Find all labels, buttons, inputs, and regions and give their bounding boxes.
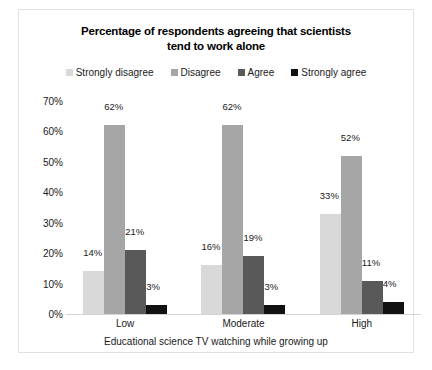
bar-value-label: 3% — [146, 281, 160, 293]
bar[interactable] — [201, 265, 222, 314]
legend-item-disagree[interactable]: Disagree — [171, 67, 221, 78]
bar-slot: 33% — [320, 101, 341, 314]
bar[interactable] — [320, 214, 341, 314]
legend-item-agree[interactable]: Agree — [238, 67, 275, 78]
y-axis-tick-label: 30% — [33, 217, 63, 228]
bar[interactable] — [104, 125, 125, 314]
bar[interactable] — [383, 302, 404, 314]
bar-cluster: 16%62%19%3% — [201, 101, 285, 314]
bar-group-moderate: 16%62%19%3% — [184, 101, 302, 314]
bar-group-high: 33%52%11%4% — [303, 101, 421, 314]
legend-label: Strongly disagree — [76, 67, 154, 78]
legend-label: Disagree — [181, 67, 221, 78]
bar-value-label: 14% — [83, 247, 102, 259]
chart-legend: Strongly disagreeDisagreeAgreeStrongly a… — [19, 67, 413, 78]
x-axis-tick-label: Moderate — [222, 318, 264, 329]
bar-value-label: 19% — [243, 232, 262, 244]
bar[interactable] — [83, 271, 104, 314]
legend-item-strongly-agree[interactable]: Strongly agree — [291, 67, 366, 78]
bar-value-label: 52% — [341, 132, 360, 144]
bar-value-label: 3% — [264, 281, 278, 293]
chart-title: Percentage of respondents agreeing that … — [19, 24, 413, 54]
bar-slot: 4% — [383, 101, 404, 314]
bar-value-label: 16% — [201, 241, 220, 253]
plot-area: 14%62%21%3%16%62%19%3%33%52%11%4% — [66, 101, 421, 314]
y-axis-tick-label: 70% — [33, 96, 63, 107]
y-axis: 70%60%50%40%30%20%10%0% — [33, 101, 63, 314]
bar-cluster: 33%52%11%4% — [320, 101, 404, 314]
bar-slot: 14% — [83, 101, 104, 314]
x-axis-baseline — [66, 314, 421, 315]
y-axis-tick-label: 0% — [33, 309, 63, 320]
bar-group-low: 14%62%21%3% — [66, 101, 184, 314]
chart-frame: Percentage of respondents agreeing that … — [18, 9, 414, 353]
legend-swatch-icon — [171, 69, 178, 76]
bar-value-label: 21% — [125, 226, 144, 238]
bar[interactable] — [362, 281, 383, 314]
bar-value-label: 4% — [383, 278, 397, 290]
y-axis-tick-label: 40% — [33, 187, 63, 198]
legend-swatch-icon — [66, 69, 73, 76]
x-axis-tick-labels: LowModerateHigh — [66, 318, 421, 334]
bar-slot: 11% — [362, 101, 383, 314]
chart-title-line-1: Percentage of respondents agreeing that … — [81, 25, 351, 37]
y-axis-tick-label: 20% — [33, 248, 63, 259]
bar[interactable] — [264, 305, 285, 314]
chart-title-line-2: tend to work alone — [19, 39, 413, 54]
bar-slot: 16% — [201, 101, 222, 314]
legend-label: Strongly agree — [301, 67, 366, 78]
bar[interactable] — [146, 305, 167, 314]
x-axis-title: Educational science TV watching while gr… — [19, 336, 413, 347]
bar-value-label: 11% — [362, 257, 380, 269]
bar-cluster: 14%62%21%3% — [83, 101, 167, 314]
bar[interactable] — [243, 256, 264, 314]
legend-label: Agree — [248, 67, 275, 78]
bar-slot: 62% — [222, 101, 243, 314]
bar-slot: 62% — [104, 101, 125, 314]
y-axis-tick-label: 50% — [33, 156, 63, 167]
bar-slot: 21% — [125, 101, 146, 314]
bar-slot: 19% — [243, 101, 264, 314]
legend-item-strongly-disagree[interactable]: Strongly disagree — [66, 67, 154, 78]
legend-swatch-icon — [291, 69, 298, 76]
bar-value-label: 62% — [104, 101, 123, 113]
bar[interactable] — [341, 156, 362, 314]
bar[interactable] — [222, 125, 243, 314]
bar-slot: 3% — [264, 101, 285, 314]
x-axis-tick-label: Low — [116, 318, 134, 329]
legend-swatch-icon — [238, 69, 245, 76]
y-axis-tick-label: 60% — [33, 126, 63, 137]
bar-slot: 52% — [341, 101, 362, 314]
bar-slot: 3% — [146, 101, 167, 314]
bar-value-label: 33% — [320, 190, 339, 202]
bar-value-label: 62% — [222, 101, 241, 113]
x-axis-tick-label: High — [352, 318, 373, 329]
y-axis-tick-label: 10% — [33, 278, 63, 289]
bar[interactable] — [125, 250, 146, 314]
